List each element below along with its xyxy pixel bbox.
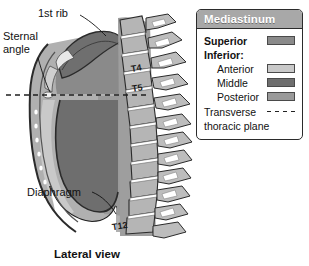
- mediastinum-legend: Mediastinum Superior Inferior: Anterior …: [196, 9, 303, 140]
- legend-swatch-middle: [267, 78, 295, 87]
- figure-caption: Lateral view: [54, 248, 120, 260]
- legend-row-transverse-plane-line2: thoracic plane: [204, 119, 295, 132]
- vertebra-label-t4: T4: [130, 62, 142, 74]
- legend-label-middle: Middle: [217, 77, 248, 89]
- first-rib-label: 1st rib: [38, 7, 68, 19]
- legend-label-transverse-plane-line1: Transverse: [204, 106, 256, 118]
- legend-row-posterior: Posterior: [204, 90, 295, 103]
- legend-row-transverse-plane: Transverse: [204, 105, 295, 118]
- legend-row-superior: Superior: [204, 34, 295, 47]
- legend-label-inferior: Inferior:: [204, 49, 244, 61]
- vertebra-label-t5: T5: [131, 82, 143, 94]
- legend-swatch-posterior: [267, 92, 295, 101]
- legend-body: Superior Inferior: Anterior Middle Poste…: [197, 29, 302, 139]
- legend-row-middle: Middle: [204, 76, 295, 89]
- sternal-angle-label-line2: angle: [3, 43, 30, 55]
- legend-swatch-anterior: [267, 64, 295, 73]
- legend-label-superior: Superior: [204, 35, 247, 47]
- legend-row-inferior-heading: Inferior:: [204, 48, 295, 61]
- vertebral-column: [118, 14, 192, 238]
- diaphragm-label: Diaphragm: [27, 186, 81, 198]
- legend-swatch-superior: [267, 36, 295, 45]
- legend-title: Mediastinum: [197, 10, 302, 29]
- legend-label-posterior: Posterior: [217, 91, 259, 103]
- sternal-angle-label-line1: Sternal: [3, 30, 38, 42]
- legend-dash-transverse-plane: [267, 111, 295, 112]
- legend-label-anterior: Anterior: [217, 63, 254, 75]
- legend-row-anterior: Anterior: [204, 62, 295, 75]
- legend-label-transverse-plane-line2: thoracic plane: [204, 120, 269, 132]
